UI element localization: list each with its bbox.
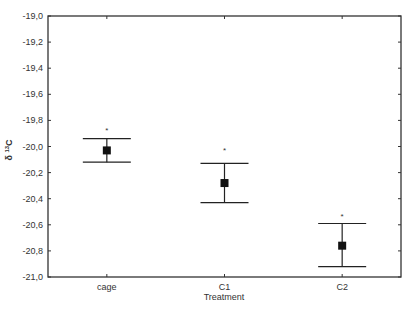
y-tick-label: -20,8	[22, 246, 43, 256]
y-tick-label: -20,2	[22, 168, 43, 178]
y-axis: -19,0-19,2-19,4-19,6-19,8-20,0-20,2-20,4…	[22, 11, 401, 282]
significance-annotation: *	[341, 212, 344, 221]
y-tick-label: -19,0	[22, 11, 43, 21]
y-axis-title: δ 13C	[4, 139, 14, 161]
significance-annotation: *	[223, 146, 226, 155]
chart: -19,0-19,2-19,4-19,6-19,8-20,0-20,2-20,4…	[0, 0, 408, 313]
x-tick-label: C2	[336, 282, 348, 292]
data-series: ***	[83, 126, 366, 267]
x-axis-title: Treatment	[204, 292, 245, 302]
mean-marker	[338, 242, 346, 250]
y-tick-label: -19,2	[22, 37, 43, 47]
y-tick-label: -20,4	[22, 194, 43, 204]
mean-marker	[103, 146, 111, 154]
y-tick-label: -19,6	[22, 89, 43, 99]
y-tick-label: -21,0	[22, 272, 43, 282]
mean-marker	[221, 179, 229, 187]
y-tick-label: -19,8	[22, 115, 43, 125]
y-tick-label: -20,6	[22, 220, 43, 230]
x-tick-label: C1	[219, 282, 231, 292]
significance-annotation: *	[105, 126, 108, 135]
x-tick-label: cage	[97, 282, 117, 292]
y-tick-label: -20,0	[22, 142, 43, 152]
y-tick-label: -19,4	[22, 63, 43, 73]
